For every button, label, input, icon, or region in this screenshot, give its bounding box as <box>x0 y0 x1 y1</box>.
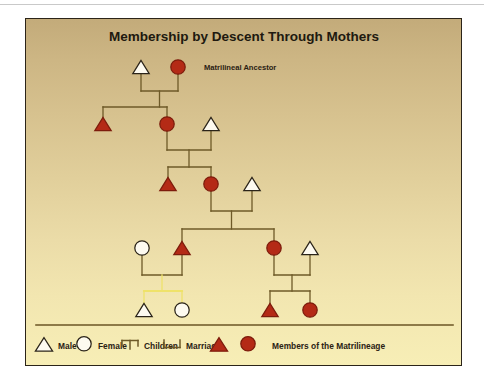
person-female-member <box>171 60 185 74</box>
person-male-member <box>160 177 176 190</box>
person-female-member <box>204 177 218 191</box>
marriage-link <box>142 255 182 275</box>
legend-item: Members of the Matrilineage <box>241 337 386 351</box>
person-male <box>136 303 152 316</box>
person-female <box>135 241 149 255</box>
kinship-diagram: Membership by Descent Through Mothers Ma… <box>26 19 462 366</box>
person-female-member <box>160 117 174 131</box>
sibling-descent-link <box>168 150 211 177</box>
person-female-member <box>267 241 281 255</box>
legend-layer: MaleFemaleChildrenMarriageMembers of the… <box>35 325 453 351</box>
legend-item-label: Children <box>144 341 178 351</box>
sibling-descent-link <box>182 211 274 241</box>
page-canvas: Membership by Descent Through Mothers Ma… <box>0 0 484 384</box>
triangle-outline-icon <box>35 338 52 352</box>
legend-item: Female <box>77 337 127 351</box>
legend-item-label: Members of the Matrilineage <box>272 341 385 351</box>
person-female-member <box>303 303 317 317</box>
circle-outline-icon <box>77 337 91 351</box>
person-male <box>244 177 260 190</box>
marriage-link <box>141 74 178 91</box>
person-nodes-layer <box>95 60 318 317</box>
person-male <box>203 117 219 130</box>
person-male <box>302 241 318 254</box>
marriage-link <box>211 191 252 211</box>
sibling-descent-link <box>103 91 167 117</box>
person-male-member <box>174 241 190 254</box>
marriage-link <box>167 131 211 150</box>
legend-item: Male <box>35 338 77 352</box>
legend-item-label: Female <box>98 341 127 351</box>
matrilineal-ancestor-label: Matrilineal Ancestor <box>204 63 276 72</box>
circle-filled-icon <box>241 337 255 351</box>
figure-title: Membership by Descent Through Mothers <box>109 29 379 44</box>
person-female <box>175 303 189 317</box>
person-male <box>133 60 149 73</box>
sibling-descent-link <box>270 275 310 303</box>
page-top-rule <box>0 4 484 5</box>
legend-item: Children <box>122 341 178 351</box>
sibling-descent-link <box>144 275 182 303</box>
person-male-member <box>262 303 278 316</box>
legend-item-label: Male <box>58 341 77 351</box>
person-male-member <box>95 117 111 130</box>
marriage-link <box>274 255 310 275</box>
figure-panel: Membership by Descent Through Mothers Ma… <box>25 18 462 366</box>
